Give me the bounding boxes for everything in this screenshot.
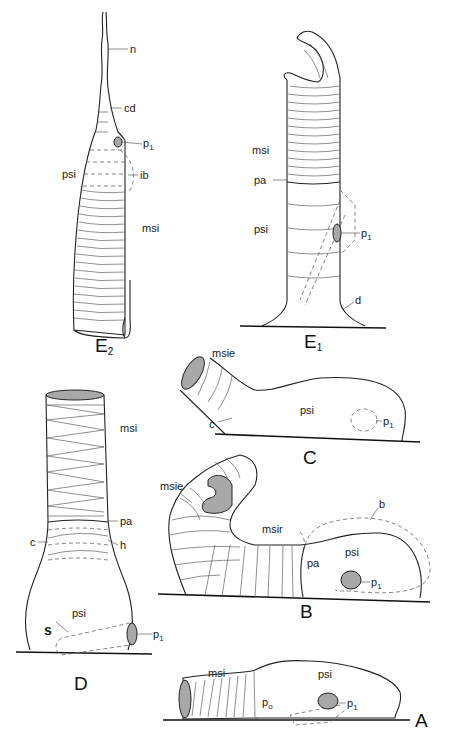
label-n: n <box>130 43 136 55</box>
label-b: b <box>379 498 385 510</box>
label-msi: msi <box>208 667 225 679</box>
e2-labels: n cd p1 psi ib msi E2 <box>62 43 159 357</box>
panel-e2 <box>73 12 133 338</box>
label-ib: ib <box>140 169 149 181</box>
label-psi: psi <box>62 168 76 180</box>
label-h: h <box>120 539 126 551</box>
panel-a <box>163 661 410 725</box>
label-s: s <box>44 622 52 638</box>
label-p1: p1 <box>383 415 394 430</box>
label-pa: pa <box>120 515 133 527</box>
panel-label-b: B <box>300 601 313 622</box>
label-p1: p1 <box>361 227 372 242</box>
label-psi: psi <box>254 223 268 235</box>
label-msie: msie <box>212 347 235 359</box>
label-psi: psi <box>72 607 86 619</box>
label-psi: psi <box>345 546 359 558</box>
panel-label-d: D <box>74 673 88 694</box>
panel-label-e1: E1 <box>304 331 323 353</box>
label-msi: msi <box>142 222 159 234</box>
panel-label-e2: E2 <box>95 335 114 357</box>
panel-b <box>158 455 430 602</box>
panel-label-a: A <box>415 710 428 731</box>
label-pa: pa <box>254 174 267 186</box>
label-c: c <box>30 536 36 548</box>
label-psi: psi <box>318 668 332 680</box>
label-c: c <box>209 418 215 430</box>
label-msi: msi <box>252 144 269 156</box>
label-p1: p1 <box>143 137 154 152</box>
label-msie: msie <box>160 480 183 492</box>
label-p1: p1 <box>153 628 164 643</box>
label-msi: msi <box>120 422 137 434</box>
c-labels: msie psi c p1 C <box>209 347 394 468</box>
label-cd: cd <box>124 102 136 114</box>
panel-label-c: C <box>303 447 317 468</box>
figure-canvas: n cd p1 psi ib msi E2 <box>0 0 454 742</box>
label-d: d <box>355 294 361 306</box>
label-psi: psi <box>300 404 314 416</box>
label-msir: msir <box>262 523 283 535</box>
label-pa: pa <box>307 557 320 569</box>
